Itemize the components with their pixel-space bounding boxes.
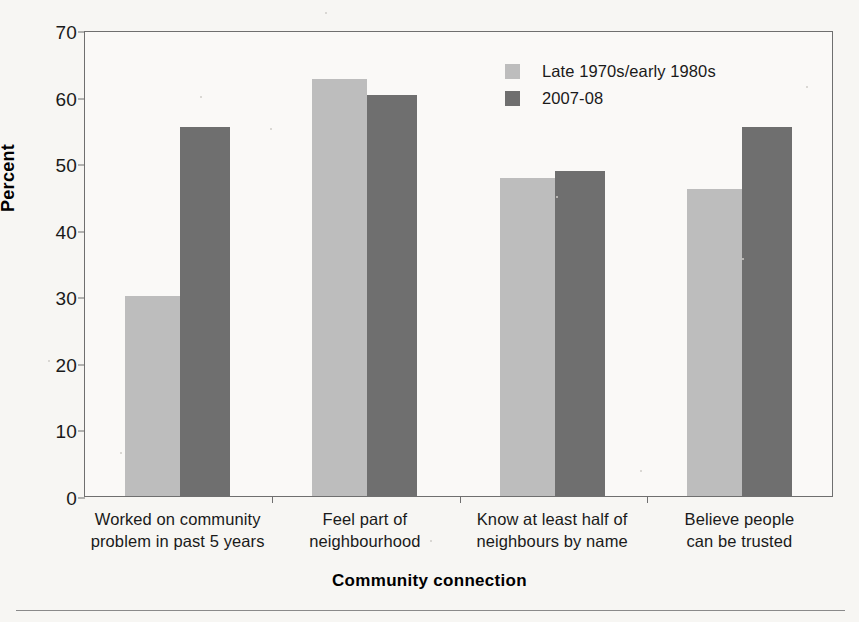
paper-speck <box>48 360 50 362</box>
y-axis-tick-mark <box>78 32 85 33</box>
y-axis-tick-mark <box>78 498 85 499</box>
paper-speck <box>270 128 272 130</box>
paper-speck <box>806 86 808 88</box>
y-axis-tick-mark <box>78 165 85 166</box>
x-axis-title: Community connection <box>0 571 859 591</box>
x-axis-group-label: Feel part of neighbourhood <box>271 508 458 552</box>
bar <box>555 171 605 496</box>
y-axis-tick-mark <box>78 298 85 299</box>
bar <box>500 178 555 496</box>
y-axis-tick-label: 10 <box>31 422 77 441</box>
y-axis-tick-label: 60 <box>31 89 77 108</box>
paper-speck <box>325 12 327 14</box>
y-axis-tick-label: 50 <box>31 156 77 175</box>
legend-item: Late 1970s/early 1980s <box>505 58 716 85</box>
x-axis-group-label: Believe people can be trusted <box>646 508 833 552</box>
legend-swatch-late-1970s-early-1980s <box>505 64 520 79</box>
paper-speck <box>430 540 432 542</box>
chart-figure: Percent 706050403020100 Late 1970s/early… <box>0 0 859 622</box>
x-axis-tick-mark <box>647 496 648 503</box>
y-axis-tick-mark <box>78 431 85 432</box>
bar <box>125 296 180 496</box>
legend-swatch-2007-08 <box>505 91 520 106</box>
plot-area <box>85 32 832 496</box>
y-axis-tick-mark <box>78 364 85 365</box>
bar <box>742 127 792 496</box>
bar <box>180 127 230 496</box>
x-axis-tick-mark <box>272 496 273 503</box>
x-axis-group-label: Worked on community problem in past 5 ye… <box>84 508 271 552</box>
legend-item: 2007-08 <box>505 85 716 112</box>
legend-label-2007-08: 2007-08 <box>542 89 603 108</box>
paper-speck <box>120 452 122 454</box>
bar <box>367 95 417 496</box>
footer-divider <box>16 610 845 611</box>
chart-legend: Late 1970s/early 1980s 2007-08 <box>505 58 716 112</box>
y-axis-tick-mark <box>78 231 85 232</box>
paper-speck <box>742 258 744 260</box>
y-axis-tick-label: 0 <box>31 489 77 508</box>
bar <box>687 189 742 496</box>
bar <box>312 79 367 496</box>
plot-frame: 706050403020100 <box>84 31 833 497</box>
paper-speck <box>640 470 642 472</box>
x-axis-group-label: Know at least half of neighbours by name <box>459 508 646 552</box>
y-axis-tick-label: 40 <box>31 222 77 241</box>
paper-speck <box>200 96 202 98</box>
y-axis-title: Percent <box>0 144 19 212</box>
legend-label-late-1970s-early-1980s: Late 1970s/early 1980s <box>542 62 716 81</box>
y-axis-tick-mark <box>78 98 85 99</box>
y-axis-tick-label: 20 <box>31 355 77 374</box>
y-axis-tick-label: 70 <box>31 23 77 42</box>
x-axis-tick-mark <box>460 496 461 503</box>
paper-speck <box>556 196 558 198</box>
y-axis-tick-label: 30 <box>31 289 77 308</box>
